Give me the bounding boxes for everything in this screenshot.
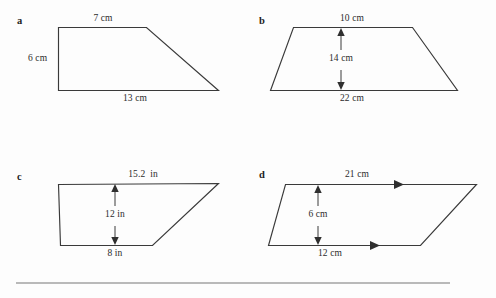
figure-b-height-dimension-label: 14 cm: [327, 54, 355, 64]
arrow-head-down-c: [111, 237, 118, 245]
parallel-mark-top-d: [394, 180, 404, 189]
figures-canvas: [0, 0, 496, 298]
figure-a-bottom-dimension-label: 13 cm: [123, 94, 147, 104]
figure-d-height-dimension-label: 6 cm: [306, 210, 329, 220]
arrow-head-down-b: [337, 82, 344, 90]
figure-c-shape: [59, 184, 219, 246]
figure-d-bottom-dimension-label: 12 cm: [318, 249, 342, 259]
figure-d-parallel-marks: [370, 180, 404, 250]
figure-d-shape: [269, 185, 477, 246]
figure-a-left-dimension-label: 6 cm: [28, 54, 47, 64]
figure-b-shape: [271, 28, 458, 91]
figure-label-d: d: [259, 170, 265, 181]
figure-label-a: a: [17, 16, 22, 27]
figure-c-top-dimension-label: 15.2 in: [128, 170, 158, 180]
figure-a-top-dimension-label: 7 cm: [93, 14, 112, 24]
figure-label-c: c: [17, 172, 22, 183]
figure-b-bottom-dimension-label: 22 cm: [340, 94, 364, 104]
trapezoid-b-outline: [271, 28, 458, 91]
trapezoid-c-outline: [59, 184, 219, 246]
arrow-head-up-c: [111, 184, 118, 192]
arrow-head-down-d: [314, 237, 321, 245]
figure-label-b: b: [259, 16, 265, 27]
figure-a-shape: [59, 28, 219, 91]
figure-c-bottom-dimension-label: 8 in: [108, 249, 123, 259]
figure-b-top-dimension-label: 10 cm: [340, 14, 364, 24]
worksheet-page: a 7 cm 6 cm 13 cm b 10 cm 14 cm 22 cm c …: [0, 0, 496, 298]
arrow-head-up-d: [314, 185, 321, 193]
figure-c-height-dimension-label: 12 in: [103, 210, 127, 220]
parallelogram-d-outline: [269, 185, 477, 246]
trapezoid-a-outline: [59, 28, 219, 91]
arrow-head-up-b: [337, 28, 344, 36]
parallel-mark-bottom-d: [370, 241, 380, 250]
figure-d-top-dimension-label: 21 cm: [345, 170, 369, 180]
